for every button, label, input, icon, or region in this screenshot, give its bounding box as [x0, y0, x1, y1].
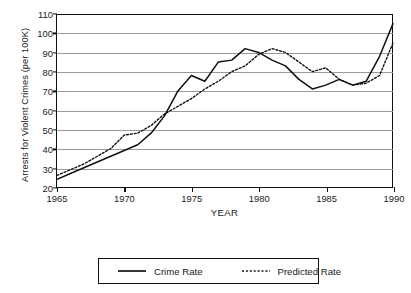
y-tick-label: 90: [43, 47, 53, 58]
y-tick-label: 40: [43, 144, 53, 155]
legend-swatch-solid-icon: [117, 267, 147, 275]
x-tick-label: 1985: [316, 193, 337, 204]
chart-figure: Arrests for Violent Crimes (per 100K) 20…: [0, 0, 411, 293]
x-axis-title: YEAR: [56, 207, 393, 218]
series-line-crime-rate: [57, 24, 393, 180]
x-tick-label: 1970: [114, 193, 135, 204]
series-line-predicted-rate: [57, 43, 393, 176]
x-tick-mark: [124, 187, 125, 192]
x-tick-mark: [394, 187, 395, 192]
y-tick-label: 30: [43, 163, 53, 174]
legend-label-predicted-rate: Predicted Rate: [278, 266, 341, 277]
chart-legend: Crime Rate Predicted Rate: [98, 258, 319, 284]
plot-area: 2030405060708090100110 19651970197519801…: [56, 14, 393, 188]
x-tick-mark: [192, 187, 193, 192]
x-tick-mark: [259, 187, 260, 192]
y-tick-label: 70: [43, 86, 53, 97]
legend-swatch-dotted-icon: [241, 267, 271, 275]
x-tick-label: 1965: [47, 193, 68, 204]
y-tick-label: 50: [43, 125, 53, 136]
y-tick-label: 80: [43, 67, 53, 78]
y-tick-label: 60: [43, 105, 53, 116]
x-tick-mark: [57, 187, 58, 192]
x-axis-ticks: 196519701975198019851990: [57, 187, 393, 209]
y-tick-label: 110: [38, 9, 53, 20]
y-tick-label: 100: [37, 28, 53, 39]
y-tick-label: 20: [43, 183, 53, 194]
x-tick-label: 1990: [384, 193, 405, 204]
x-tick-label: 1980: [249, 193, 270, 204]
x-tick-mark: [327, 187, 328, 192]
x-tick-label: 1975: [181, 193, 202, 204]
y-axis-title: Arrests for Violent Crimes (per 100K): [20, 10, 30, 200]
legend-entry-predicted-rate: Predicted Rate: [241, 266, 341, 277]
legend-label-crime-rate: Crime Rate: [154, 266, 203, 277]
series-lines: [57, 14, 393, 187]
legend-entry-crime-rate: Crime Rate: [117, 266, 203, 277]
